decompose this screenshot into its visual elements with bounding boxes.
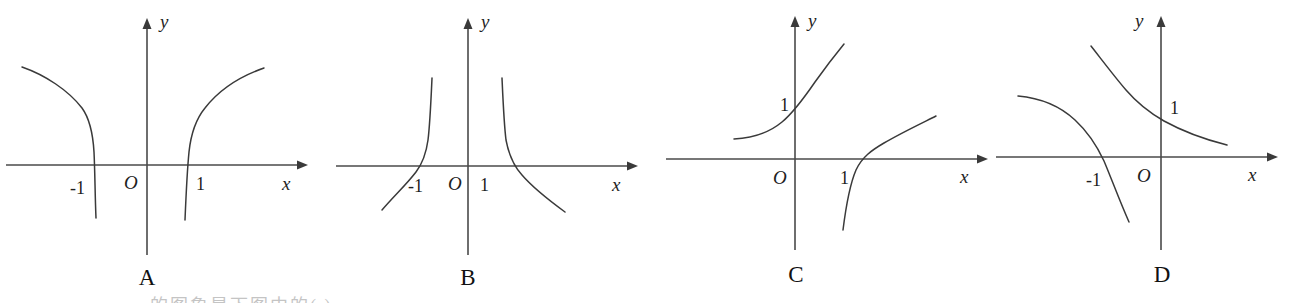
x-tick-neg-one-a: -1: [70, 178, 85, 198]
option-letter-d: D: [1142, 263, 1182, 286]
option-panel-a: y x O -1 1 A: [0, 0, 330, 303]
option-letter-b: B: [448, 266, 488, 289]
x-axis-label-c: x: [959, 166, 969, 187]
y-axis-arrowhead-a: [143, 18, 152, 29]
x-tick-one-c: 1: [840, 168, 849, 188]
y-axis-arrowhead-d: [1157, 16, 1166, 27]
x-axis-arrowhead-d: [1267, 153, 1278, 162]
origin-label-d: O: [1137, 165, 1151, 186]
y-tick-one-d: 1: [1170, 98, 1179, 118]
graph-c: y x O 1 1: [660, 0, 990, 303]
figure-root: y x O -1 1 A y x O -1 1 B: [0, 0, 1290, 303]
x-tick-neg-one-d: -1: [1086, 170, 1101, 190]
origin-label-c: O: [773, 167, 787, 188]
x-axis-label-a: x: [281, 173, 291, 194]
graph-b: y x O -1 1: [330, 0, 660, 303]
curve-neglog-right-b: [502, 78, 565, 212]
origin-label-b: O: [448, 173, 462, 194]
x-axis-arrowhead-b: [627, 162, 638, 171]
curve-exponential-c: [734, 44, 844, 139]
x-tick-one-b: 1: [480, 175, 489, 195]
option-panel-c: y x O 1 1 C: [660, 0, 990, 303]
curve-logarithm-decreasing-d: [1018, 96, 1129, 222]
x-tick-neg-one-b: -1: [408, 176, 423, 196]
y-axis-label-d: y: [1133, 10, 1144, 31]
option-panel-d: y x O -1 1 D: [990, 0, 1290, 303]
y-axis-arrowhead-b: [464, 18, 473, 29]
origin-label-a: O: [124, 172, 138, 193]
option-letter-c: C: [776, 263, 816, 286]
y-axis-arrowhead-c: [791, 16, 800, 27]
curve-log-right-a: [185, 68, 264, 220]
curve-logarithm-c: [843, 116, 936, 230]
option-letter-a: A: [127, 266, 167, 289]
graph-d: y x O -1 1: [990, 0, 1290, 303]
y-axis-label-a: y: [158, 11, 169, 32]
y-axis-label-c: y: [806, 10, 817, 31]
curve-neglog-left-b: [382, 78, 432, 210]
x-axis-arrowhead-a: [297, 161, 308, 170]
y-axis-label-b: y: [479, 11, 490, 32]
option-panel-b: y x O -1 1 B: [330, 0, 660, 303]
curve-exponential-decay-d: [1091, 46, 1227, 145]
x-axis-arrowhead-c: [977, 155, 988, 164]
x-tick-one-a: 1: [196, 174, 205, 194]
x-axis-label-d: x: [1247, 164, 1257, 185]
cropped-bottom-text: 的图象是下图中的( ): [150, 291, 333, 303]
graph-a: y x O -1 1: [0, 0, 330, 303]
y-tick-one-c: 1: [780, 95, 789, 115]
x-axis-label-b: x: [611, 174, 621, 195]
